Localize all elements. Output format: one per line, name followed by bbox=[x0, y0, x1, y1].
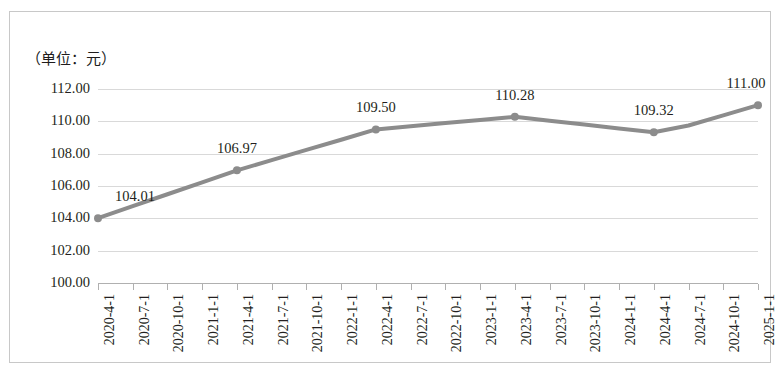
y-axis-tick-label: 110.00 bbox=[20, 112, 90, 129]
x-axis-tick-mark bbox=[445, 284, 446, 290]
x-axis-tick-label: 2022-4-1 bbox=[381, 294, 395, 345]
x-axis-ticks bbox=[98, 284, 758, 291]
x-axis-tick-mark bbox=[584, 284, 585, 290]
data-point-label: 106.97 bbox=[217, 140, 257, 157]
x-axis-tick-mark bbox=[341, 284, 342, 290]
x-axis-tick-mark bbox=[550, 284, 551, 290]
x-axis-tick-mark bbox=[272, 284, 273, 290]
x-axis-tick-mark bbox=[98, 284, 99, 290]
y-axis-tick-label: 106.00 bbox=[20, 177, 90, 194]
x-axis-tick-mark bbox=[723, 284, 724, 290]
x-axis-tick-label: 2022-1-1 bbox=[346, 294, 360, 345]
x-axis-tick-mark bbox=[689, 284, 690, 290]
x-axis-tick-mark bbox=[202, 284, 203, 290]
x-axis-tick-mark bbox=[515, 284, 516, 290]
chart-frame: （单位：元） 112.00110.00108.00106.00104.00102… bbox=[9, 11, 771, 363]
data-point-label: 109.50 bbox=[356, 99, 396, 116]
y-axis-labels: 112.00110.00108.00106.00104.00102.00100.… bbox=[18, 89, 90, 283]
x-axis-tick-label: 2024-1-1 bbox=[624, 294, 638, 345]
data-point-label: 111.00 bbox=[727, 75, 766, 92]
data-point-label: 104.01 bbox=[115, 188, 155, 205]
data-point-label: 109.32 bbox=[634, 102, 674, 119]
x-axis-tick-label: 2020-4-1 bbox=[103, 294, 117, 345]
x-axis-tick-mark bbox=[619, 284, 620, 290]
x-axis-tick-label: 2020-7-1 bbox=[138, 294, 152, 345]
x-axis-tick-label: 2023-4-1 bbox=[520, 294, 534, 345]
y-axis-tick-label: 108.00 bbox=[20, 145, 90, 162]
y-axis-tick-label: 102.00 bbox=[20, 242, 90, 259]
x-axis-tick-label: 2023-7-1 bbox=[555, 294, 569, 345]
x-axis-tick-label: 2024-10-1 bbox=[728, 294, 742, 352]
x-axis-tick-label: 2024-4-1 bbox=[659, 294, 673, 345]
x-axis-labels: 2020-4-12020-7-12020-10-12021-1-12021-4-… bbox=[98, 292, 758, 380]
x-axis-tick-label: 2021-7-1 bbox=[277, 294, 291, 345]
x-axis-tick-label: 2023-1-1 bbox=[485, 294, 499, 345]
x-axis-tick-mark bbox=[237, 284, 238, 290]
y-axis-tick-label: 100.00 bbox=[20, 274, 90, 291]
x-axis-tick-mark bbox=[758, 284, 759, 290]
x-axis-tick-label: 2021-10-1 bbox=[311, 294, 325, 352]
y-axis-tick-label: 104.00 bbox=[20, 209, 90, 226]
y-axis-tick-label: 112.00 bbox=[20, 80, 90, 97]
x-axis-tick-mark bbox=[654, 284, 655, 290]
data-point-labels: 104.01106.97109.50110.28109.32111.00 bbox=[98, 89, 758, 283]
data-point-label: 110.28 bbox=[495, 87, 534, 104]
x-axis-tick-label: 2021-4-1 bbox=[242, 294, 256, 345]
x-axis-tick-label: 2022-10-1 bbox=[450, 294, 464, 352]
x-axis-tick-label: 2023-10-1 bbox=[589, 294, 603, 352]
x-axis-tick-label: 2022-7-1 bbox=[416, 294, 430, 345]
unit-label: （单位：元） bbox=[26, 47, 116, 68]
x-axis-tick-label: 2020-10-1 bbox=[172, 294, 186, 352]
x-axis-tick-label: 2025-1-1 bbox=[763, 294, 777, 345]
x-axis-tick-label: 2024-7-1 bbox=[694, 294, 708, 345]
x-axis-tick-mark bbox=[167, 284, 168, 290]
x-axis-tick-mark bbox=[306, 284, 307, 290]
x-axis-tick-mark bbox=[376, 284, 377, 290]
x-axis-tick-label: 2021-1-1 bbox=[207, 294, 221, 345]
x-axis-tick-mark bbox=[133, 284, 134, 290]
x-axis-tick-mark bbox=[480, 284, 481, 290]
x-axis-tick-mark bbox=[411, 284, 412, 290]
